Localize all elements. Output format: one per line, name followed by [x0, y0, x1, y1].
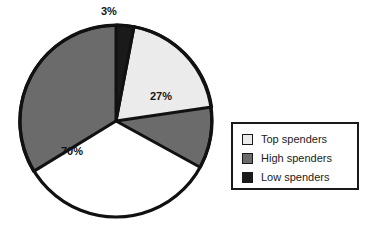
legend-swatch-icon-low-spenders	[242, 172, 253, 183]
pie-chart-graphic	[18, 23, 214, 219]
legend-item-top-spenders[interactable]: Top spenders	[242, 130, 354, 148]
legend-swatch-icon-top-spenders	[242, 134, 253, 145]
legend-label-low-spenders: Low spenders	[261, 171, 330, 183]
legend-label-top-spenders: Top spenders	[261, 133, 327, 145]
chart-legend: Top spenders High spenders Low spenders	[231, 122, 359, 190]
pie-chart-figure: 3% 27% 70% Top spenders High spenders Lo…	[0, 0, 377, 233]
legend-item-low-spenders[interactable]: Low spenders	[242, 168, 354, 186]
legend-item-high-spenders[interactable]: High spenders	[242, 149, 354, 167]
legend-list: Top spenders High spenders Low spenders	[242, 130, 354, 187]
pie-label-high-spenders: 70%	[61, 145, 83, 157]
legend-label-high-spenders: High spenders	[261, 152, 332, 164]
pie-label-low-spenders: 3%	[101, 5, 117, 17]
legend-swatch-icon-high-spenders	[242, 153, 253, 164]
pie-label-top-spenders: 27%	[150, 90, 172, 102]
pie-svg	[18, 23, 214, 219]
